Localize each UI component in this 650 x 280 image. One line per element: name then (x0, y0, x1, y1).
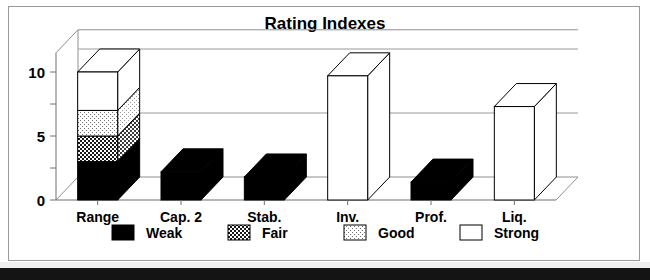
bar-group[interactable] (328, 53, 390, 200)
bar-front-face (78, 110, 118, 136)
legend-label: Strong (494, 225, 539, 241)
legend: WeakFairGoodStrong (112, 225, 539, 241)
floor-depth-line-right (556, 177, 578, 200)
legend-label: Fair (262, 225, 288, 241)
bar-group[interactable] (494, 84, 556, 200)
bar-front-face (328, 76, 368, 200)
legend-swatch (112, 225, 134, 240)
bar-group[interactable] (161, 149, 223, 200)
bar-group[interactable] (78, 49, 140, 200)
legend-swatch (344, 225, 366, 240)
legend-item[interactable]: Weak (112, 225, 183, 241)
scan-artifact-band (0, 268, 650, 280)
x-tick-label: Prof. (415, 209, 447, 225)
legend-item[interactable]: Fair (228, 225, 288, 241)
x-tick-label: Range (76, 209, 119, 225)
ceiling-depth-line-left (56, 30, 78, 53)
y-axis: 0510 (28, 64, 56, 209)
x-tick-label: Inv. (336, 209, 359, 225)
legend-label: Good (378, 225, 415, 241)
floor-depth-line-left (56, 177, 78, 200)
y-tick-label: 0 (37, 192, 45, 209)
bar-front-face (78, 136, 118, 162)
screenshot-root: Rating Indexes 0510 RangeCap. 2Stab.Inv.… (0, 0, 650, 280)
bar-front-face (411, 182, 451, 200)
x-tick-label: Cap. 2 (160, 209, 202, 225)
legend-item[interactable]: Good (344, 225, 415, 241)
bar-front-face (494, 107, 534, 200)
x-axis: RangeCap. 2Stab.Inv.Prof.Liq. (76, 200, 527, 225)
bar-group[interactable] (411, 159, 473, 200)
plot-area (56, 30, 578, 200)
legend-label: Weak (146, 225, 183, 241)
legend-item[interactable]: Strong (460, 225, 539, 241)
bar-group[interactable] (244, 154, 306, 200)
bar-front-face (244, 177, 284, 200)
bar-front-face (78, 72, 118, 110)
legend-swatch (460, 225, 482, 240)
bar-side-face (368, 53, 390, 200)
y-tick-label: 10 (28, 64, 45, 81)
bar-front-face (161, 172, 201, 200)
bar-front-face (78, 162, 118, 200)
legend-swatch (228, 225, 250, 240)
x-tick-label: Stab. (247, 209, 281, 225)
y-tick-label: 5 (37, 128, 45, 145)
rating-indexes-chart: Rating Indexes 0510 RangeCap. 2Stab.Inv.… (0, 0, 650, 280)
x-tick-label: Liq. (502, 209, 527, 225)
